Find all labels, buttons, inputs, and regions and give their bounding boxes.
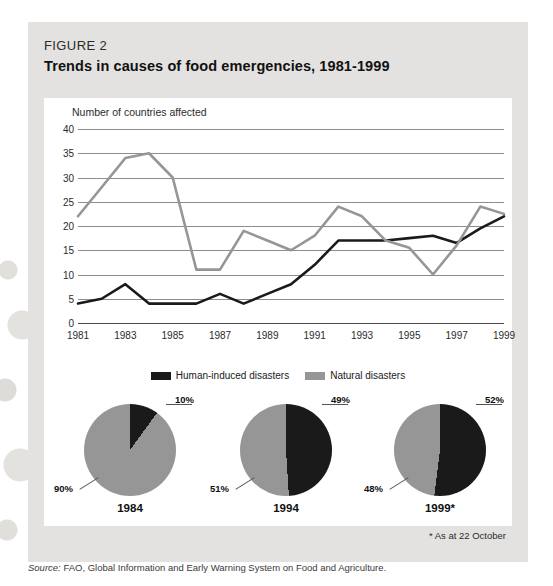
figure-label: FIGURE 2 <box>44 38 107 53</box>
legend-label: Natural disasters <box>330 370 405 381</box>
pie-label-natural: 51% <box>210 483 229 494</box>
chart-panel: Number of countries affected 40353025201… <box>44 98 512 526</box>
series-lines <box>44 98 512 366</box>
pie-leader-line-light <box>79 477 98 490</box>
pie-wrap: 49%51% <box>240 404 332 496</box>
pie-disc <box>240 404 332 496</box>
pie-chart-1984: 10%90%1984 <box>52 394 208 514</box>
pie-year-label: 1984 <box>52 502 208 514</box>
source-text: FAO, Global Information and Early Warnin… <box>61 562 386 573</box>
pie-chart-1994: 49%51%1994 <box>208 394 364 514</box>
pie-chart-group: 10%90%198449%51%199452%48%1999* <box>44 394 512 526</box>
legend-label: Human-induced disasters <box>176 370 289 381</box>
pie-year-label: 1994 <box>208 502 364 514</box>
pie-chart-1999: 52%48%1999* <box>362 394 518 514</box>
series-line-natural-disasters <box>78 153 504 274</box>
chart-legend: Human-induced disastersNatural disasters <box>44 370 512 381</box>
pie-disc <box>84 404 176 496</box>
pie-leader-line-light <box>235 477 254 490</box>
series-line-human-induced-disasters <box>78 216 504 303</box>
figure-title: Trends in causes of food emergencies, 19… <box>44 58 390 74</box>
legend-swatch-icon <box>305 372 325 380</box>
source-line: Source: FAO, Global Information and Earl… <box>28 562 528 573</box>
pie-wrap: 52%48% <box>394 404 486 496</box>
pie-leader-line-dark <box>166 404 192 405</box>
pie-wrap: 10%90% <box>84 404 176 496</box>
legend-item-human-induced-disasters: Human-induced disasters <box>151 370 289 381</box>
pie-leader-line-dark <box>476 404 502 405</box>
pie-leader-line-dark <box>322 404 348 405</box>
pie-label-natural: 48% <box>364 483 383 494</box>
pie-leader-line-light <box>389 477 408 490</box>
legend-swatch-icon <box>151 372 171 380</box>
line-chart: Number of countries affected 40353025201… <box>44 98 512 366</box>
pie-disc <box>394 404 486 496</box>
footnote: * As at 22 October <box>44 530 512 541</box>
figure-container: FIGURE 2 Trends in causes of food emerge… <box>28 22 528 562</box>
pie-year-label: 1999* <box>362 502 518 514</box>
source-label: Source: <box>28 562 61 573</box>
legend-item-natural-disasters: Natural disasters <box>305 370 405 381</box>
pie-label-natural: 90% <box>54 483 73 494</box>
